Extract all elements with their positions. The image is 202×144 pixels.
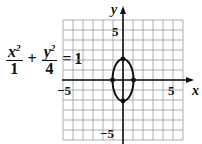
coordinate-plane: y x −5 5 5 −5 — [0, 0, 202, 144]
vertex-point — [121, 57, 126, 62]
x-axis-label: x — [191, 83, 199, 98]
y-axis-arrow-icon — [120, 6, 126, 14]
y-tick-neg5: −5 — [100, 126, 114, 141]
vertex-point — [131, 78, 136, 83]
y-axis-label: y — [109, 2, 118, 17]
vertex-point — [110, 78, 115, 83]
x-tick-5: 5 — [168, 83, 175, 98]
y-tick-5: 5 — [112, 24, 119, 39]
vertex-point — [121, 99, 126, 104]
x-tick-neg5: −5 — [57, 83, 71, 98]
